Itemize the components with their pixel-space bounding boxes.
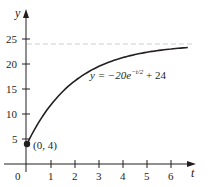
initial-point-marker [24,141,30,147]
initial-point-label: (0, 4) [33,139,57,152]
y-tick-label-20: 20 [6,58,18,70]
x-tick-label-2: 2 [72,170,78,182]
x-tick-label-5: 5 [144,170,150,182]
x-tick-label-6: 6 [168,170,174,182]
x-tick-label-4: 4 [120,170,126,182]
y-tick-label-5: 5 [12,133,18,145]
function-curve [27,48,188,145]
equation-suffix: + 24 [143,69,166,81]
equation-prefix: y = −20e [89,69,131,81]
x-tick-label-3: 3 [96,170,102,182]
origin-label: 0 [15,170,21,182]
chart: y t 0 5 10 15 20 25 1 2 3 4 5 6 (0, 4) y… [0,0,209,187]
y-axis-arrow-icon [23,9,29,18]
equation-exponent: −t/2 [131,68,144,76]
y-axis-label: y [14,6,21,20]
x-axis-label: t [191,166,195,180]
y-tick-label-25: 25 [6,33,18,45]
y-tick-label-10: 10 [6,108,18,120]
equation-label: y = −20e−t/2 + 24 [89,68,166,81]
y-tick-label-15: 15 [6,83,18,95]
x-tick-label-1: 1 [48,170,54,182]
